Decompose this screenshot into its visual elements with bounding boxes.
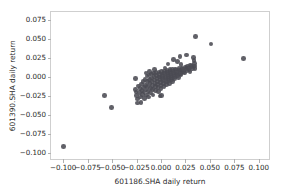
scatter-point <box>179 62 184 67</box>
y-tick-label: 0.050 <box>26 35 46 42</box>
y-tick-label: −0.075 <box>20 130 46 137</box>
scatter-point <box>61 144 66 149</box>
x-tick-label: −0.050 <box>99 164 125 171</box>
y-tick-mark <box>48 39 52 40</box>
x-tick-label: 0.100 <box>249 164 269 171</box>
scatter-point <box>102 93 107 98</box>
scatter-plot-figure: 0.0750.0500.0250.000−0.025−0.050−0.075−0… <box>0 0 289 196</box>
y-tick-label: −0.050 <box>20 111 46 118</box>
x-tick-label: 0.025 <box>175 164 195 171</box>
x-tick-mark <box>185 159 186 163</box>
scatter-point <box>133 76 138 81</box>
scatter-point <box>151 93 156 98</box>
y-tick-label: 0.000 <box>26 73 46 80</box>
scatter-point <box>209 42 214 47</box>
scatter-point <box>152 67 157 72</box>
x-tick-label: 0.075 <box>224 164 244 171</box>
data-points-layer <box>51 12 269 159</box>
scatter-point <box>241 56 246 61</box>
plot-axes: 0.0750.0500.0250.000−0.025−0.050−0.075−0… <box>50 11 270 160</box>
x-tick-mark <box>234 159 235 163</box>
y-tick-mark <box>48 20 52 21</box>
x-tick-mark <box>259 159 260 163</box>
x-tick-label: 0.050 <box>200 164 220 171</box>
y-tick-label: −0.025 <box>20 92 46 99</box>
x-tick-mark <box>210 159 211 163</box>
x-tick-mark <box>63 159 64 163</box>
x-tick-label: −0.025 <box>123 164 149 171</box>
x-tick-label: −0.075 <box>75 164 101 171</box>
x-tick-mark <box>88 159 89 163</box>
x-tick-mark <box>137 159 138 163</box>
y-axis-label-text: 601390.SHA daily return <box>8 40 15 131</box>
y-tick-mark <box>48 58 52 59</box>
x-tick-mark <box>112 159 113 163</box>
scatter-point <box>178 54 183 59</box>
scatter-point <box>184 53 189 58</box>
x-tick-label: −0.100 <box>50 164 76 171</box>
y-tick-mark <box>48 153 52 154</box>
y-axis-label: 601390.SHA daily return <box>7 11 17 160</box>
scatter-point <box>146 95 151 100</box>
x-tick-label: 0.000 <box>151 164 171 171</box>
x-axis-label: 601186.SHA daily return <box>50 178 270 185</box>
scatter-point <box>139 100 144 105</box>
y-tick-mark <box>48 77 52 78</box>
x-tick-mark <box>161 159 162 163</box>
scatter-point <box>193 34 198 39</box>
y-tick-mark <box>48 134 52 135</box>
scatter-point <box>109 105 114 110</box>
y-tick-mark <box>48 96 52 97</box>
scatter-point <box>144 71 149 76</box>
y-tick-mark <box>48 115 52 116</box>
y-tick-label: 0.075 <box>26 16 46 23</box>
y-tick-label: 0.025 <box>26 54 46 61</box>
y-tick-label: −0.100 <box>20 149 46 156</box>
scatter-point <box>193 66 198 71</box>
